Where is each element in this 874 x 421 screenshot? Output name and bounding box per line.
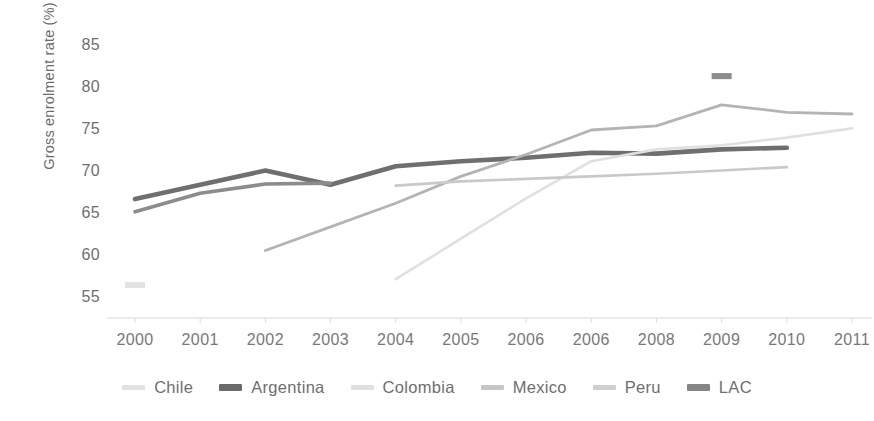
legend-label: Colombia <box>383 378 455 397</box>
chart-legend: ChileArgentinaColombiaMexicoPeruLAC <box>0 378 874 397</box>
legend-swatch-icon <box>593 385 616 390</box>
legend-swatch-icon <box>351 385 374 390</box>
legend-swatch-icon <box>122 385 145 390</box>
legend-label: Peru <box>625 378 661 397</box>
legend-item-mexico[interactable]: Mexico <box>481 378 567 397</box>
legend-item-peru[interactable]: Peru <box>593 378 661 397</box>
series-line-peru <box>396 167 787 186</box>
legend-label: Mexico <box>513 378 567 397</box>
legend-label: Argentina <box>251 378 324 397</box>
legend-label: LAC <box>719 378 752 397</box>
legend-item-colombia[interactable]: Colombia <box>351 378 455 397</box>
series-line-lac <box>135 183 331 212</box>
legend-item-argentina[interactable]: Argentina <box>219 378 324 397</box>
legend-label: Chile <box>154 378 193 397</box>
legend-item-lac[interactable]: LAC <box>687 378 752 397</box>
legend-swatch-icon <box>481 385 504 390</box>
legend-swatch-icon <box>219 384 242 391</box>
legend-swatch-icon <box>687 384 710 391</box>
chart-figure: Gross enrolment rate (%) 55606570758085 … <box>0 0 874 421</box>
legend-item-chile[interactable]: Chile <box>122 378 193 397</box>
plot-area <box>0 0 874 421</box>
